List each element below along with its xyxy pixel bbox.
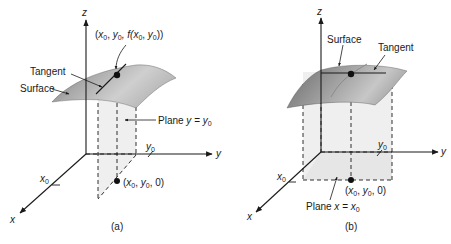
- surface-label-b: Surface: [327, 34, 362, 45]
- panel-b: z y x Surface Tangent y0 x0 (x0, y0, 0) …: [246, 6, 447, 232]
- y-axis-label-b: y: [440, 146, 447, 157]
- tangent-label-b: Tangent: [378, 42, 414, 53]
- point-top-label-a: (x0, y0, f(x0, y0)): [95, 29, 163, 41]
- z-axis-label-b: z: [316, 6, 322, 17]
- base-point-b: [348, 177, 354, 183]
- surface-label-a: Surface: [20, 83, 55, 94]
- tangent-label-a: Tangent: [30, 66, 66, 77]
- x-axis-a: [20, 154, 86, 213]
- surface-point-a: [114, 72, 120, 78]
- y-axis-label-a: y: [215, 148, 222, 159]
- base-point-a: [114, 178, 120, 184]
- caption-b: (b): [345, 221, 357, 232]
- base-point-label-a: (x0, y0, 0): [123, 177, 164, 189]
- z-axis-label-a: z: [81, 7, 87, 18]
- surface-pointer-b: [339, 45, 343, 66]
- base-point-label-b: (x0, y0, 0): [345, 185, 386, 197]
- tick-x0-label-b: x0: [276, 171, 286, 183]
- plane-label-b: Plane x = x0: [306, 201, 360, 213]
- caption-a: (a): [111, 221, 123, 232]
- plane-label-a: Plane y = y0: [158, 115, 212, 127]
- tick-y0-label-a: y0: [145, 141, 155, 153]
- tick-x0-label-a: x0: [39, 173, 49, 185]
- surface-point-b: [348, 71, 354, 77]
- figure-canvas: z y x (x0, y0, f(x0, y0)) Tangent Surfac…: [0, 0, 451, 244]
- x-axis-label-b: x: [246, 211, 253, 222]
- x-axis-label-a: x: [9, 214, 16, 225]
- panel-a: z y x (x0, y0, f(x0, y0)) Tangent Surfac…: [9, 7, 222, 232]
- surface-a: [52, 65, 176, 108]
